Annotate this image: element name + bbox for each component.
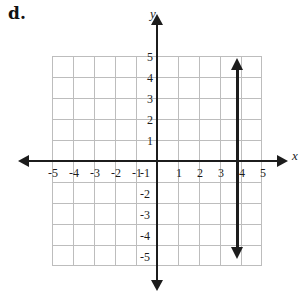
x-axis-left-arrow-icon <box>18 155 29 167</box>
plotted-line-down-arrow-icon <box>231 247 243 259</box>
coordinate-plane: x y -5 -4 -3 -2 -1 1 2 3 4 5 5 4 3 2 1 -… <box>0 0 307 292</box>
y-tick-label: -4 <box>132 229 150 244</box>
y-tick-label: 4 <box>135 71 153 86</box>
y-axis-down-arrow-icon <box>151 280 163 291</box>
plotted-line-up-arrow-icon <box>231 58 243 70</box>
x-tick-label: -5 <box>44 166 62 181</box>
x-tick-label: 1 <box>170 166 188 181</box>
y-tick-label: 3 <box>135 92 153 107</box>
y-axis <box>156 22 158 283</box>
x-axis-right-arrow-icon <box>277 155 288 167</box>
x-axis <box>27 160 280 162</box>
x-tick-label: 2 <box>191 166 209 181</box>
x-tick-label: 3 <box>212 166 230 181</box>
y-tick-label: -5 <box>132 250 150 265</box>
plotted-line-x-equals-4 <box>236 68 239 248</box>
y-tick-label: 1 <box>135 134 153 149</box>
x-tick-label: -3 <box>86 166 104 181</box>
x-axis-label: x <box>292 148 298 164</box>
graph-figure: d. <box>0 0 307 292</box>
x-tick-label: 5 <box>254 166 272 181</box>
y-tick-label: -2 <box>132 187 150 202</box>
y-axis-label: y <box>150 6 156 22</box>
x-tick-label: -4 <box>65 166 83 181</box>
y-tick-label: -1 <box>132 166 150 181</box>
y-tick-label: 5 <box>135 50 153 65</box>
y-tick-label: 2 <box>135 113 153 128</box>
y-tick-label: -3 <box>132 208 150 223</box>
x-tick-label: -2 <box>107 166 125 181</box>
